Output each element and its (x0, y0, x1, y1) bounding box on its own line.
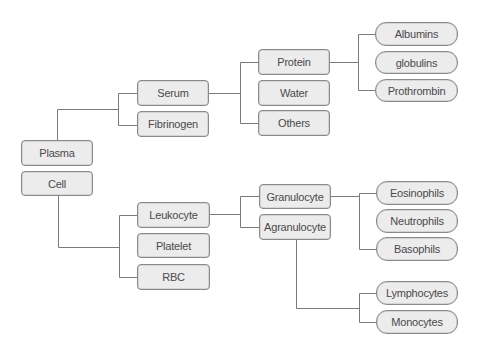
blood-composition-tree-diagram: Plasma Cell Serum Fibrinogen Protein Wat… (0, 0, 483, 354)
node-others: Others (258, 110, 330, 136)
connector-granulocyte (331, 194, 376, 250)
node-rbc: RBC (137, 264, 210, 290)
node-eosinophils: Eosinophils (376, 181, 458, 205)
node-neutrophils: Neutrophils (376, 209, 458, 233)
node-basophils: Basophils (376, 237, 458, 261)
node-albumins: Albumins (375, 22, 458, 46)
connector-plasma (58, 94, 138, 141)
connector-agranulocyte (297, 240, 377, 323)
node-plasma: Plasma (21, 140, 93, 166)
node-leukocyte: Leukocyte (137, 202, 210, 228)
node-protein: Protein (258, 49, 330, 75)
node-lymphocytes: Lymphocytes (376, 281, 458, 305)
connector-serum (209, 63, 258, 124)
node-platelet: Platelet (137, 233, 210, 258)
node-agranulocyte: Agranulocyte (259, 214, 331, 240)
node-cell: Cell (21, 171, 93, 196)
connector-cell (59, 196, 138, 278)
node-monocytes: Monocytes (376, 310, 458, 334)
node-water: Water (258, 80, 330, 106)
connector-protein (330, 35, 375, 91)
node-prothrombin: Prothrombin (375, 79, 458, 102)
node-globulins: globulins (375, 51, 458, 74)
connector-leukocyte (210, 197, 259, 228)
node-serum: Serum (137, 80, 209, 106)
node-fibrinogen: Fibrinogen (137, 111, 209, 137)
node-granulocyte: Granulocyte (259, 184, 331, 209)
